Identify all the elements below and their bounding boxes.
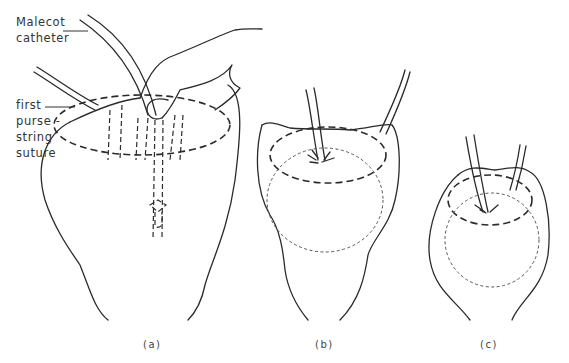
panel-a-drawing bbox=[34, 15, 262, 320]
suture-label-line1: first bbox=[16, 98, 41, 113]
panel-b-drawing bbox=[257, 70, 410, 320]
suture-label-line3: string bbox=[16, 130, 53, 145]
catheter-label-line2: catheter bbox=[16, 31, 69, 46]
suture-label-line4: suture bbox=[16, 146, 56, 161]
catheter-label-line1: Malecot bbox=[16, 15, 65, 30]
caption-a: (a) bbox=[143, 339, 161, 350]
caption-b: (b) bbox=[315, 339, 334, 350]
surgical-diagram: Malecot catheter first purse - string su… bbox=[0, 0, 569, 363]
suture-label-line2: purse - bbox=[16, 114, 60, 129]
diagram-drawing bbox=[0, 0, 569, 363]
caption-c: (c) bbox=[480, 339, 498, 350]
panel-c-drawing bbox=[429, 135, 549, 320]
